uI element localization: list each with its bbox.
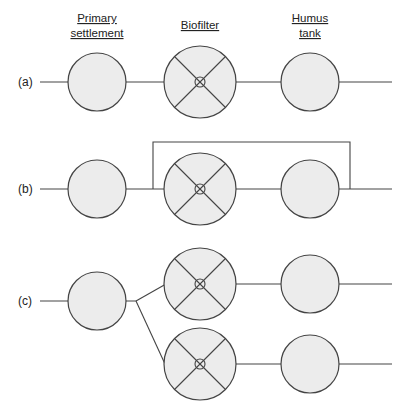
biofilter-flow-diagram: Primary settlement Biofilter Humus tank … xyxy=(0,0,411,414)
biofilter xyxy=(164,46,236,118)
row-label-b: (b) xyxy=(18,182,33,196)
svg-text:settlement: settlement xyxy=(70,27,124,39)
svg-text:Biofilter: Biofilter xyxy=(181,19,220,31)
svg-text:tank: tank xyxy=(299,27,321,39)
header-biofilter: Biofilter xyxy=(181,19,220,31)
row-c: (c) xyxy=(18,248,392,400)
row-a: (a) xyxy=(18,46,392,118)
primary-settlement-tank xyxy=(68,53,126,111)
humus-tank-lower xyxy=(281,335,339,393)
primary-settlement-tank xyxy=(68,160,126,218)
primary-settlement-tank xyxy=(68,272,126,330)
row-b: (b) xyxy=(18,142,392,225)
biofilter-upper xyxy=(164,248,236,320)
humus-tank xyxy=(281,53,339,111)
humus-tank xyxy=(281,160,339,218)
header-humus-tank: Humus tank xyxy=(292,12,329,39)
split-line-upper xyxy=(136,284,166,301)
svg-text:Humus: Humus xyxy=(292,12,329,24)
header-primary-settlement: Primary settlement xyxy=(70,12,124,39)
row-label-a: (a) xyxy=(18,75,33,89)
biofilter xyxy=(164,153,236,225)
biofilter-lower xyxy=(164,328,236,400)
svg-text:Primary: Primary xyxy=(77,12,117,24)
split-line-lower xyxy=(136,301,165,364)
humus-tank-upper xyxy=(281,255,339,313)
row-label-c: (c) xyxy=(18,294,32,308)
